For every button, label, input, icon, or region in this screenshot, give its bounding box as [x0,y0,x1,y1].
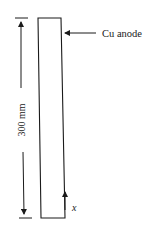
dimension-label: 300 mm [16,103,27,136]
cu-anode-rectangle [38,18,65,218]
anode-label: Cu anode [102,28,142,39]
dimension-arrow-down-icon [23,152,24,214]
x-axis-label: x [71,202,77,213]
electrode-diagram: 300 mm Cu anode x [0,0,161,232]
